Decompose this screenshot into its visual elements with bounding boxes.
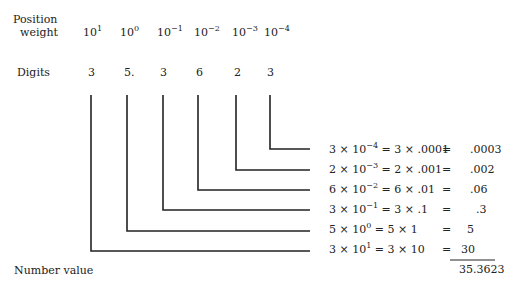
row-5-eq: = <box>442 244 451 256</box>
row-3-eq: = <box>442 204 451 216</box>
expansion-row-2: 6 × 10−2 = 6 × .01 <box>329 184 435 196</box>
expansion-row-0: 3 × 10−4 = 3 × .0001 <box>329 144 449 156</box>
expansion-row-4: 5 × 100 = 5 × 1 <box>329 224 418 236</box>
row-0-eq: = <box>442 144 451 156</box>
row-5-value: 30 <box>461 244 475 256</box>
row-3-value: .3 <box>476 204 487 216</box>
connector-lines <box>0 0 514 282</box>
expansion-row-3: 3 × 10−1 = 3 × .1 <box>329 204 428 216</box>
row-1-value: .002 <box>470 164 495 176</box>
expansion-row-5: 3 × 101 = 3 × 10 <box>329 244 425 256</box>
row-2-value: .06 <box>470 184 488 196</box>
row-2-eq: = <box>442 184 451 196</box>
row-4-value: 5 <box>467 224 474 236</box>
expansion-row-1: 2 × 10−3 = 2 × .001 <box>329 164 442 176</box>
number-value-label: Number value <box>14 265 93 277</box>
row-1-eq: = <box>442 164 451 176</box>
row-0-value: .0003 <box>470 144 502 156</box>
row-4-eq: = <box>442 224 451 236</box>
total-value: 35.3623 <box>459 264 505 276</box>
